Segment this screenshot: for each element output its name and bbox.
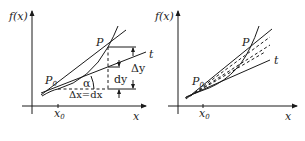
p-label: P [95,36,104,49]
p0-label: P0 [191,75,204,89]
x0-label: x0 [199,107,210,121]
left-panel: f(x) x x0 Δy dy α Δx=dx P0 P t [8,10,154,123]
right-panel: f(x) x x0 P0 P t [154,10,297,123]
x0-label: x0 [54,107,65,121]
dy-label: dy [114,73,128,86]
p-label: P [241,36,250,49]
tangent-label: t [149,48,154,61]
secant-dashed-3 [190,52,265,96]
alpha-arc [91,76,94,89]
delta-x-label: Δx=dx [69,89,103,100]
p0-label: P0 [44,74,57,88]
x-axis-label: x [285,110,292,123]
tangent-label: t [274,54,279,67]
y-axis-label: f(x) [8,10,28,23]
x-axis-label: x [133,110,140,123]
delta-y-label: Δy [131,62,146,75]
y-axis-label: f(x) [154,10,174,23]
differential-diagram: f(x) x x0 Δy dy α Δx=dx P0 P t [0,0,305,141]
